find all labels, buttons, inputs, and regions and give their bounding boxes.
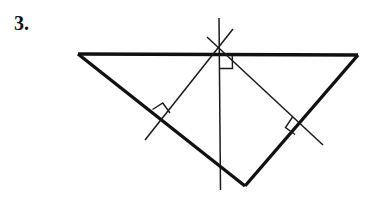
side-lower-right [245,55,358,186]
figure-root: 3. [0,0,382,210]
right-angle-marks [153,55,296,134]
perpendicular-bisectors [145,18,323,190]
side-top [78,54,358,55]
triangle-outline [78,54,358,186]
right-angle-mark-top-side [220,55,233,68]
geometry-diagram [0,0,382,210]
